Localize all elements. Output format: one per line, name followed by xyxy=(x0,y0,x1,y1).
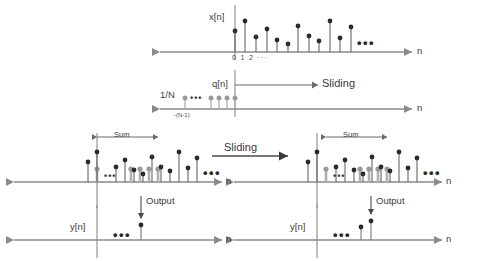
bl-x-stems xyxy=(86,150,200,182)
label-bl-y-ellipsis: ••• xyxy=(113,228,131,241)
bl-axis-group xyxy=(14,133,222,208)
label-bl-y-axis-n: n xyxy=(226,234,231,244)
bl-output-stem xyxy=(139,223,144,240)
label-q-ellipsis: ••• xyxy=(190,94,202,103)
label-bl-inner-ellipsis: ••• xyxy=(104,172,116,181)
label-x-signal: x[n] xyxy=(209,12,224,22)
label-q-start: -(N-1) xyxy=(174,112,190,118)
label-br-inner-ellipsis: ••• xyxy=(333,172,345,181)
label-br-y-ellipsis: ••• xyxy=(333,228,351,241)
label-br-axis-n: n xyxy=(446,176,451,186)
label-x-ellipsis: ••• xyxy=(357,36,375,49)
label-x-ticks: 0 1 2 ··· xyxy=(232,54,268,61)
label-q-gain: 1/N xyxy=(160,90,175,100)
label-bl-y-signal: y[n] xyxy=(70,222,85,232)
label-bl-output: Output xyxy=(146,196,175,206)
br-output-stems xyxy=(359,219,374,240)
br-x-stems xyxy=(306,150,420,182)
diagram-canvas: x[n] n 0 1 2 ··· ••• q[n] 1/N n -(N-1) •… xyxy=(0,0,480,261)
label-bl-sum: Sum xyxy=(114,131,129,139)
label-br-output: Output xyxy=(376,196,405,206)
label-br-y-signal: y[n] xyxy=(290,222,305,232)
label-bl-ellipsis: ••• xyxy=(203,166,221,179)
label-middle-sliding: Sliding xyxy=(224,142,257,153)
label-br-sum: Sum xyxy=(343,131,358,139)
label-x-axis-n: n xyxy=(417,46,422,56)
label-br-ellipsis: ••• xyxy=(423,166,441,179)
top-panel-stems xyxy=(233,19,354,52)
top-panel-x-axis-group xyxy=(160,5,412,60)
label-q-sliding: Sliding xyxy=(322,78,355,89)
label-br-y-axis-n: n xyxy=(446,234,451,244)
label-q-signal: q[n] xyxy=(212,79,228,89)
label-bl-axis-n: n xyxy=(226,176,231,186)
label-q-axis-n: n xyxy=(417,103,422,113)
